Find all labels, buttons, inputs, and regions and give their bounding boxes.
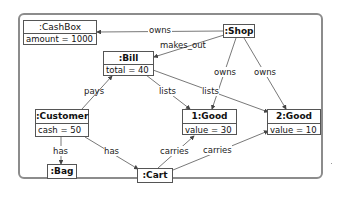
node-customer: :Customer cash = 50 [35, 109, 89, 137]
node-good1: 1:Good value = 30 [182, 109, 237, 135]
edge-label-carries-good2: carries [203, 145, 232, 155]
node-attribute: value = 10 [268, 123, 320, 136]
node-title: :Shop [224, 25, 254, 37]
node-bill: :Bill total = 40 [103, 51, 154, 76]
node-cashbox: :CashBox amount = 1000 [23, 20, 97, 45]
edge-label-owns-good2: owns [254, 67, 276, 77]
node-bag: :Bag [47, 164, 77, 179]
node-title: :CashBox [24, 21, 96, 33]
node-title: :Bill [104, 52, 153, 64]
edge-label-lists-good1: lists [159, 86, 176, 96]
edge-label-has-bag: has [53, 146, 68, 156]
node-title: 1:Good [183, 110, 236, 123]
stray-dot [331, 163, 332, 164]
node-attribute: amount = 1000 [24, 33, 96, 45]
edge-label-pays: pays [84, 86, 104, 96]
node-good2: 2:Good value = 10 [267, 109, 321, 135]
node-shop: :Shop [223, 24, 255, 38]
node-attribute: total = 40 [104, 64, 153, 76]
node-attribute: cash = 50 [36, 123, 88, 137]
node-attribute: value = 30 [183, 123, 236, 136]
edge-label-carries-good1: carries [160, 146, 189, 156]
node-cart: :Cart [137, 168, 173, 183]
edge-label-makes-out: makes_out [160, 40, 206, 50]
edge-label-has-cart: has [104, 146, 119, 156]
node-title: 2:Good [268, 110, 320, 123]
node-title: :Customer [36, 110, 88, 123]
edge-label-owns-cashbox: owns [148, 25, 172, 35]
edge-label-lists-good2: lists [202, 86, 219, 96]
node-title: :Bag [48, 165, 76, 178]
node-title: :Cart [138, 169, 172, 182]
edge-label-owns-good1: owns [214, 67, 236, 77]
